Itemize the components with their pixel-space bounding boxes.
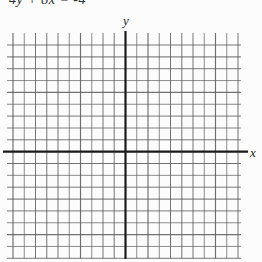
graph-page: 4y + 8x = -4 y x bbox=[0, 0, 262, 262]
coordinate-grid-svg bbox=[0, 0, 262, 262]
y-axis-label: y bbox=[121, 14, 131, 27]
x-axis-label: x bbox=[250, 146, 256, 159]
